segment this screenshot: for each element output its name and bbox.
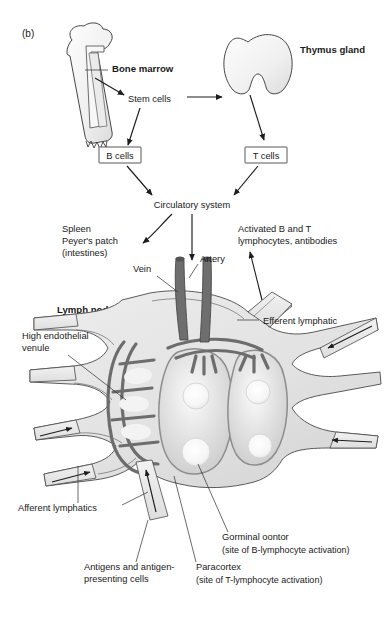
tcells-to-circulation-arrow bbox=[234, 166, 258, 195]
activated-line2: lymphocytes, antibodies bbox=[238, 236, 338, 246]
stemcells-to-bcells-arrow bbox=[128, 108, 140, 145]
germinal-center-line1: Gorminal oontor bbox=[222, 532, 289, 542]
hev-lumen-3 bbox=[121, 424, 151, 440]
panel-label: (b) bbox=[22, 28, 34, 39]
germinal-center-1 bbox=[183, 383, 209, 409]
antigens-line1: Antigens and antigen- bbox=[84, 562, 174, 572]
antigens-leader bbox=[136, 520, 148, 562]
bone-marrow-label: Bone marrow bbox=[112, 63, 174, 74]
paracortex-label: Paracortex (site of T-lymphocyte activat… bbox=[196, 562, 322, 585]
circulation-to-spleen-arrow bbox=[143, 214, 172, 243]
efferent-lymphatic-label: Efferent lymphatic bbox=[263, 316, 338, 326]
spleen-label: Spleen bbox=[62, 224, 91, 234]
b-cells-label: B cells bbox=[106, 151, 134, 161]
paracortex-line2: (site of T-lymphocyte activation) bbox=[196, 575, 322, 585]
artery-leader bbox=[189, 264, 198, 278]
afferent-lymphatic-right-lower bbox=[330, 432, 378, 448]
peyers-patch-label: Peyer's patch bbox=[62, 236, 118, 246]
germinal-center-4 bbox=[248, 434, 272, 458]
afferent-leader-2 bbox=[122, 492, 148, 505]
afferent-lymphatic-lower-left bbox=[34, 420, 80, 440]
hev-line2: venule bbox=[22, 343, 49, 353]
node-to-activated-arrow bbox=[250, 252, 262, 300]
activated-lymphocytes-label: Activated B and T lymphocytes, antibodie… bbox=[238, 224, 338, 246]
paracortex-line1: Paracortex bbox=[196, 562, 241, 572]
b-cells-box: B cells bbox=[99, 147, 141, 163]
t-cells-box: T cells bbox=[245, 147, 287, 163]
thymus-shape bbox=[224, 35, 292, 94]
t-cells-label: T cells bbox=[253, 151, 280, 161]
immune-system-figure: (b) Bone marrow Thymus gland Stem cells bbox=[0, 0, 384, 620]
activated-line1: Activated B and T bbox=[238, 224, 312, 234]
paracortex-leader bbox=[174, 476, 196, 562]
germinal-center-2 bbox=[182, 438, 210, 466]
afferent-lymphatic-mid-left bbox=[30, 366, 76, 382]
hev-label: High endothelial venule bbox=[22, 331, 89, 353]
afferent-lymphatics-label: Afferent lymphatics bbox=[18, 503, 97, 513]
stem-cells-label: Stem cells bbox=[128, 94, 171, 104]
artery-label: Artery bbox=[200, 254, 225, 264]
antigens-label: Antigens and antigen- presenting cells bbox=[84, 562, 174, 584]
bcells-to-circulation-arrow bbox=[127, 166, 152, 195]
figure-canvas: (b) Bone marrow Thymus gland Stem cells bbox=[0, 0, 384, 620]
vein-cap bbox=[176, 256, 185, 261]
circulatory-system-label: Circulatory system bbox=[154, 200, 231, 210]
intestines-label: (intestines) bbox=[62, 248, 107, 258]
germinal-center-label: Gorminal oontor (site of B-lymphocyte ac… bbox=[222, 532, 350, 555]
germinal-center-3 bbox=[246, 380, 270, 404]
hev-line1: High endothelial bbox=[22, 331, 89, 341]
bone-marrow-illustration bbox=[67, 23, 112, 149]
thymus-to-tcells-arrow bbox=[250, 95, 264, 140]
germinal-center-line2: (site of B-lymphocyte activation) bbox=[222, 545, 350, 555]
thymus-gland-label: Thymus gland bbox=[300, 44, 365, 55]
vein-label: Vein bbox=[133, 264, 151, 274]
antigens-line2: presenting cells bbox=[84, 574, 149, 584]
secondary-lymphoid-organs-label: Spleen Peyer's patch (intestines) bbox=[62, 224, 118, 258]
thymus-illustration bbox=[224, 35, 292, 94]
